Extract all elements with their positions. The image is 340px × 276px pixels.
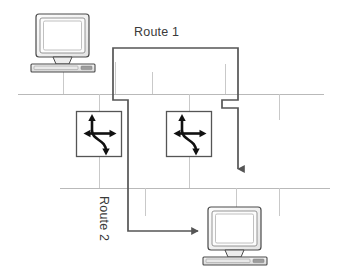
computer-top-left <box>31 14 95 72</box>
route-1-label: Route 1 <box>134 25 179 39</box>
route-2-label: Route 2 <box>97 196 111 241</box>
monitor-neck <box>225 250 244 257</box>
monitor-screen <box>44 21 82 50</box>
diagram-canvas <box>0 0 340 276</box>
keyboard-keys <box>206 259 250 263</box>
keyboard-keys <box>34 66 78 70</box>
base-indicator <box>253 259 264 263</box>
monitor-screen <box>216 214 254 243</box>
network-diagram: Route 1 Route 2 <box>0 0 340 276</box>
base-indicator <box>81 66 92 70</box>
router-right <box>167 112 212 157</box>
computer-bottom-right <box>203 207 267 265</box>
monitor-neck <box>53 57 72 64</box>
router-left <box>77 112 122 157</box>
